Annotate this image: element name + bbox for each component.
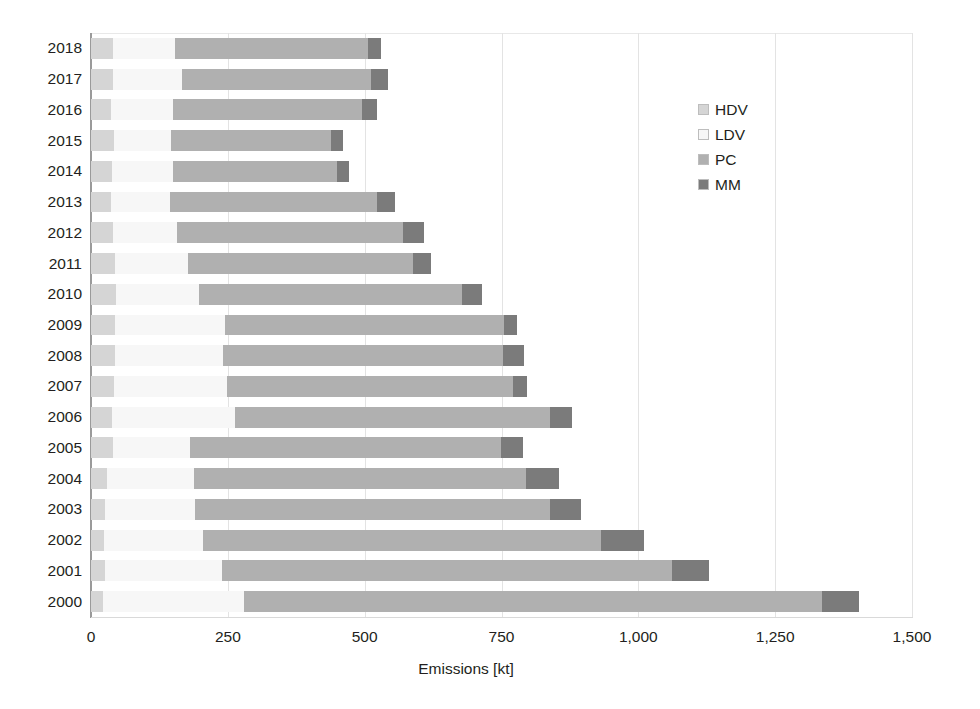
legend-item-hdv[interactable]: HDV [698, 97, 818, 122]
y-axis-tick-label: 2006 [22, 409, 82, 425]
chart-legend: HDVLDVPCMM [698, 97, 818, 197]
legend-swatch-icon [698, 129, 709, 140]
legend-label: PC [715, 152, 737, 168]
legend-swatch-icon [698, 104, 709, 115]
y-axis-tick-label: 2003 [22, 501, 82, 517]
legend-label: HDV [715, 102, 748, 118]
y-axis-tick-label: 2000 [22, 594, 82, 610]
y-axis-tick-label: 2004 [22, 471, 82, 487]
legend-item-mm[interactable]: MM [698, 172, 818, 197]
y-axis-tick-label: 2017 [22, 71, 82, 87]
stacked-bar-chart: 2018201720162015201420132012201120102009… [0, 0, 980, 709]
x-axis-tick-label: 250 [215, 628, 241, 646]
legend-item-pc[interactable]: PC [698, 147, 818, 172]
y-axis-tick-label: 2013 [22, 194, 82, 210]
y-axis-tick-label: 2001 [22, 563, 82, 579]
y-axis-tick-label: 2015 [22, 133, 82, 149]
y-axis-tick-label: 2005 [22, 440, 82, 456]
legend-swatch-icon [698, 179, 709, 190]
x-axis-tick-label: 500 [352, 628, 378, 646]
x-axis-tick-label: 750 [489, 628, 515, 646]
x-axis-title: Emissions [kt] [0, 660, 980, 678]
y-axis-tick-label: 2018 [22, 40, 82, 56]
x-axis-line [91, 617, 913, 618]
y-axis-tick-label: 2010 [22, 286, 82, 302]
y-axis-tick-label: 2009 [22, 317, 82, 333]
legend-label: LDV [715, 127, 745, 143]
legend-label: MM [715, 177, 741, 193]
y-axis-tick-label: 2008 [22, 348, 82, 364]
x-axis-tick-label: 1,000 [619, 628, 658, 646]
y-axis-tick-label: 2016 [22, 102, 82, 118]
x-axis-tick-label: 1,250 [756, 628, 795, 646]
y-axis-tick-label: 2007 [22, 378, 82, 394]
x-axis-title-text: Emissions [kt] [418, 660, 514, 678]
x-axis-tick-labels: 02505007501,0001,2501,500 [0, 628, 980, 654]
y-axis-tick-label: 2014 [22, 163, 82, 179]
x-axis-tick-label: 0 [87, 628, 96, 646]
y-axis-tick-label: 2012 [22, 225, 82, 241]
y-axis-tick-labels: 2018201720162015201420132012201120102009… [0, 33, 980, 617]
y-axis-tick-label: 2011 [22, 256, 82, 272]
x-axis-tick-label: 1,500 [893, 628, 932, 646]
y-axis-tick-label: 2002 [22, 532, 82, 548]
legend-swatch-icon [698, 154, 709, 165]
legend-item-ldv[interactable]: LDV [698, 122, 818, 147]
